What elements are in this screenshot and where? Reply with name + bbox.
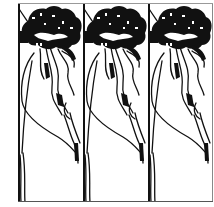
tree-panel-1 — [18, 3, 83, 202]
panel-border-right — [212, 3, 213, 202]
tree-illustration — [18, 3, 83, 202]
tree-panel-2 — [83, 3, 148, 202]
pattern-frame — [18, 3, 213, 202]
tree-panel-3 — [148, 3, 213, 202]
panel-border-top — [18, 3, 213, 4]
panel-border-left — [18, 3, 20, 202]
panel-divider-1 — [83, 3, 85, 202]
tree-illustration — [148, 3, 213, 202]
tree-illustration — [83, 3, 148, 202]
panel-border-bottom — [18, 201, 213, 202]
panel-divider-2 — [148, 3, 150, 202]
